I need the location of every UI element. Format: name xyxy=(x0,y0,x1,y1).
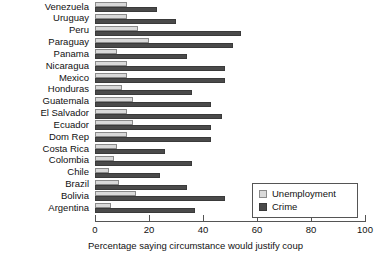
category-label-nicaragua: Nicaragua xyxy=(0,61,89,71)
bar-crime-peru xyxy=(95,31,241,36)
x-tick-0 xyxy=(95,215,96,222)
category-label-costa-rica: Costa Rica xyxy=(0,144,89,154)
category-label-uruguay: Uruguay xyxy=(0,13,89,23)
x-tick-40 xyxy=(203,215,204,222)
bar-crime-nicaragua xyxy=(95,66,225,71)
category-label-guatemala: Guatemala xyxy=(0,96,89,106)
category-label-brazil: Brazil xyxy=(0,179,89,189)
bar-crime-mexico xyxy=(95,78,225,83)
bar-crime-paraguay xyxy=(95,43,233,48)
bar-crime-uruguay xyxy=(95,19,176,24)
category-label-ecuador: Ecuador xyxy=(0,120,89,130)
legend-swatch-crime-icon xyxy=(259,203,267,211)
legend-label-unemployment: Unemployment xyxy=(272,188,336,199)
category-label-mexico: Mexico xyxy=(0,73,89,83)
bar-crime-brazil xyxy=(95,185,187,190)
category-label-paraguay: Paraguay xyxy=(0,37,89,47)
y-axis-category-labels: VenezuelaUruguayPeruParaguayPanamaNicara… xyxy=(0,2,92,215)
category-label-dom-rep: Dom Rep xyxy=(0,132,89,142)
bar-crime-ecuador xyxy=(95,125,211,130)
x-tick-label-80: 80 xyxy=(291,224,331,235)
bar-crime-dom-rep xyxy=(95,137,211,142)
x-tick-label-100: 100 xyxy=(345,224,385,235)
category-label-peru: Peru xyxy=(0,25,89,35)
category-label-panama: Panama xyxy=(0,49,89,59)
x-tick-100 xyxy=(365,215,366,222)
category-label-honduras: Honduras xyxy=(0,84,89,94)
chart-legend: Unemployment Crime xyxy=(252,183,358,218)
bar-crime-guatemala xyxy=(95,102,211,107)
bar-crime-bolivia xyxy=(95,196,225,201)
category-label-bolivia: Bolivia xyxy=(0,191,89,201)
x-tick-label-40: 40 xyxy=(183,224,223,235)
category-label-chile: Chile xyxy=(0,167,89,177)
x-tick-label-0: 0 xyxy=(75,224,115,235)
legend-swatch-unemployment-icon xyxy=(259,190,267,198)
bar-crime-panama xyxy=(95,54,187,59)
bar-crime-el-salvador xyxy=(95,114,222,119)
bar-crime-venezuela xyxy=(95,7,157,12)
bar-crime-chile xyxy=(95,173,160,178)
category-label-colombia: Colombia xyxy=(0,155,89,165)
category-label-argentina: Argentina xyxy=(0,203,89,213)
horizontal-bar-chart: VenezuelaUruguayPeruParaguayPanamaNicara… xyxy=(0,0,391,263)
x-tick-label-20: 20 xyxy=(129,224,169,235)
bar-crime-colombia xyxy=(95,161,192,166)
x-tick-label-60: 60 xyxy=(237,224,277,235)
category-label-venezuela: Venezuela xyxy=(0,2,89,12)
x-axis-line xyxy=(95,221,365,222)
legend-label-crime: Crime xyxy=(272,201,297,212)
legend-entry-unemployment: Unemployment xyxy=(259,187,357,200)
legend-entry-crime: Crime xyxy=(259,200,357,213)
bar-crime-costa-rica xyxy=(95,149,165,154)
bar-crime-honduras xyxy=(95,90,192,95)
x-tick-20 xyxy=(149,215,150,222)
bar-crime-argentina xyxy=(95,208,195,213)
x-axis-title: Percentage saying circumstance would jus… xyxy=(0,240,391,251)
category-label-el-salvador: El Salvador xyxy=(0,108,89,118)
